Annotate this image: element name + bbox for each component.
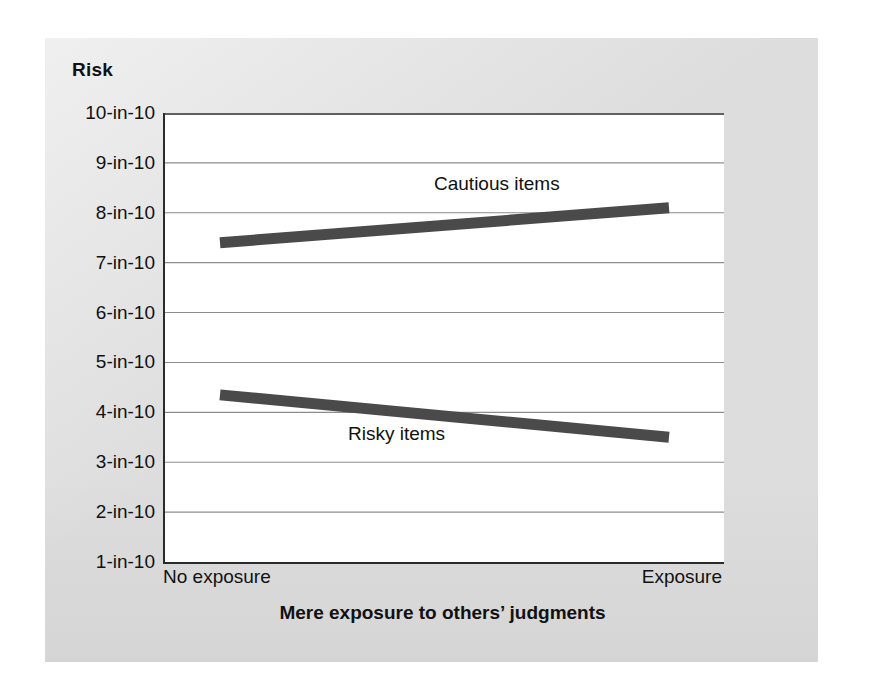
series-label-cautious-items: Cautious items	[434, 173, 560, 195]
y-tick-label: 9-in-10	[15, 152, 163, 174]
x-tick-label-no-exposure: No exposure	[163, 566, 271, 588]
y-tick-label: 1-in-10	[15, 551, 163, 573]
x-tick-label-exposure: Exposure	[642, 566, 722, 588]
y-tick-label: 3-in-10	[15, 451, 163, 473]
series-label-risky-items: Risky items	[348, 423, 445, 445]
series-lines	[220, 208, 669, 437]
y-tick-label: 4-in-10	[15, 401, 163, 423]
y-tick-label: 6-in-10	[15, 302, 163, 324]
y-axis-tick-labels: 10-in-10 9-in-10 8-in-10 7-in-10 6-in-10…	[0, 0, 163, 699]
y-tick-label: 7-in-10	[15, 252, 163, 274]
y-tick-label: 5-in-10	[15, 351, 163, 373]
y-tick-label: 2-in-10	[15, 501, 163, 523]
y-tick-label: 8-in-10	[15, 202, 163, 224]
x-axis-title: Mere exposure to others’ judgments	[163, 602, 722, 624]
y-tick-label: 10-in-10	[15, 102, 163, 124]
